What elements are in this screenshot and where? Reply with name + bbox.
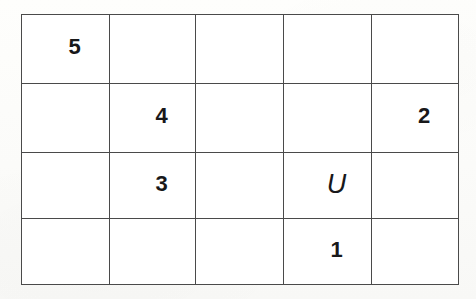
grid-cell-r3c2[interactable]: 3 (110, 153, 196, 219)
grid-cell-r2c4[interactable] (284, 84, 372, 153)
grid-row: 1 (22, 219, 459, 285)
grid-cell-r3c1[interactable] (22, 153, 110, 219)
cell-grid: 5 4 2 3 U (21, 14, 459, 285)
grid-cell-r3c4[interactable]: U (284, 153, 372, 219)
grid-cell-r1c4[interactable] (284, 15, 372, 84)
cell-label: 4 (155, 105, 167, 127)
grid-cell-r2c3[interactable] (196, 84, 284, 153)
grid-cell-r3c5[interactable] (372, 153, 459, 219)
grid-cell-r2c5[interactable]: 2 (372, 84, 459, 153)
cell-label: U (327, 171, 347, 198)
grid-cell-r2c2[interactable]: 4 (110, 84, 196, 153)
grid-cell-r4c4[interactable]: 1 (284, 219, 372, 285)
grid-cell-r1c2[interactable] (110, 15, 196, 84)
cell-label: 1 (330, 239, 342, 261)
grid-cell-r4c3[interactable] (196, 219, 284, 285)
grid-cell-r4c2[interactable] (110, 219, 196, 285)
cell-label: 2 (418, 105, 430, 127)
grid-cell-r2c1[interactable] (22, 84, 110, 153)
grid-row: 3 U (22, 153, 459, 219)
grid-row: 5 (22, 15, 459, 84)
grid-cell-r1c3[interactable] (196, 15, 284, 84)
grid-cell-r4c1[interactable] (22, 219, 110, 285)
grid-cell-r1c1[interactable]: 5 (22, 15, 110, 84)
grid-cell-r1c5[interactable] (372, 15, 459, 84)
grid-cell-r4c5[interactable] (372, 219, 459, 285)
cell-label: 5 (68, 36, 80, 58)
grid-container: 5 4 2 3 U (21, 14, 458, 284)
grid-cell-r3c3[interactable] (196, 153, 284, 219)
cell-label: 3 (155, 173, 167, 195)
grid-row: 4 2 (22, 84, 459, 153)
